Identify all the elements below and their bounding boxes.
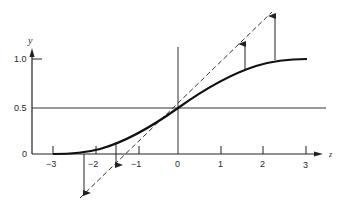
tangent-dashed-line: [80, 12, 272, 198]
y-tick-label-0: 0: [22, 149, 27, 159]
x-tick-label-m1: −1: [131, 159, 141, 169]
x-tick-label-1: 1: [218, 159, 223, 169]
y-axis-arrow-icon: [30, 48, 35, 57]
x-tick-label-3: 3: [303, 160, 308, 170]
x-axis-label: z: [328, 150, 333, 159]
sigmoid-diagram: y 1.0 0.5 0 −3 −2 −1 0 1 2 3 z: [0, 0, 348, 211]
x-tick-label-m3: −3: [46, 159, 56, 169]
x-tick-label-2: 2: [260, 159, 265, 169]
y-axis-label: y: [27, 35, 33, 46]
y-tick-label-05: 0.5: [14, 103, 27, 113]
y-tick-label-1: 1.0: [14, 54, 27, 64]
x-tick-label-m2: −2: [88, 159, 98, 169]
sigmoid-curve: [53, 59, 307, 154]
x-tick-label-0: 0: [175, 159, 180, 169]
x-axis-arrow-icon: [314, 152, 323, 157]
